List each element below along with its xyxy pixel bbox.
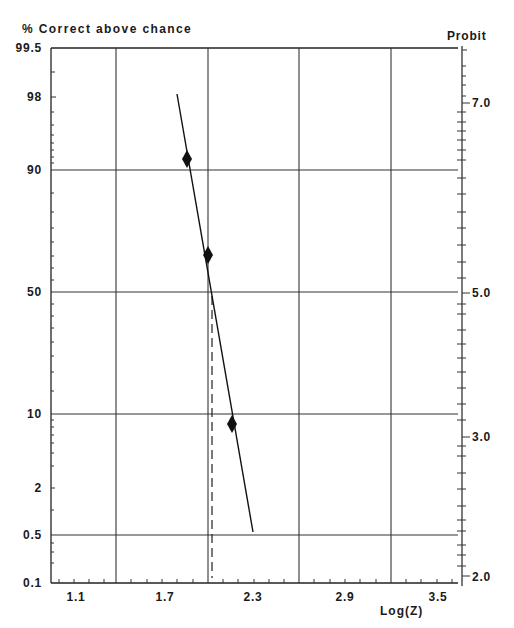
probit-axis <box>458 46 462 586</box>
diamond-marker <box>182 150 192 168</box>
probit-axis-ticks <box>457 50 470 576</box>
y-axis-ticks <box>51 72 56 563</box>
plot-frame <box>51 48 458 583</box>
grid-vertical <box>116 48 391 583</box>
chart-plot <box>0 0 514 628</box>
grid-horizontal <box>51 170 458 535</box>
